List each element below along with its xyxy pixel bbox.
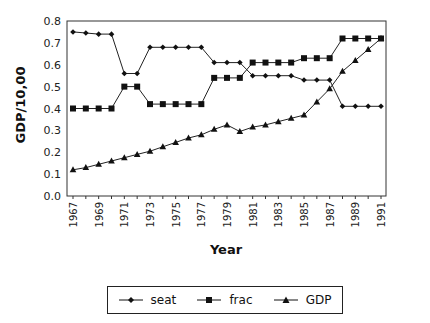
x-tick-label: 1975 xyxy=(171,202,182,227)
legend-label: seat xyxy=(151,293,177,307)
x-tick-label: 1985 xyxy=(299,202,310,227)
x-tick-label: 1981 xyxy=(248,202,259,227)
x-tick-label: 1987 xyxy=(325,202,336,227)
x-tick-label: 1977 xyxy=(196,202,207,227)
legend-item-gdp: GDP xyxy=(274,293,332,307)
series-frac xyxy=(70,36,384,112)
square-marker-icon xyxy=(197,295,221,305)
diamond-marker-icon xyxy=(119,295,143,305)
x-tick-label: 1979 xyxy=(222,202,233,227)
line-chart: 0.00.10.20.30.40.50.60.70.81967196919711… xyxy=(0,0,430,323)
x-tick-label: 1969 xyxy=(94,202,105,227)
triangle-marker-icon xyxy=(274,295,298,305)
plot-area xyxy=(67,21,386,196)
y-tick-label: 0.8 xyxy=(44,15,62,28)
series-seat xyxy=(70,29,384,109)
y-tick-label: 0.3 xyxy=(44,124,62,137)
x-tick-label: 1967 xyxy=(68,202,79,227)
legend: seat frac GDP xyxy=(107,286,343,314)
y-tick-label: 0.6 xyxy=(44,59,62,72)
y-tick-label: 0.2 xyxy=(44,146,62,159)
y-axis-label: GDP/10,00 xyxy=(13,67,28,144)
legend-label: frac xyxy=(229,293,252,307)
y-tick-label: 0.4 xyxy=(44,103,62,116)
legend-item-seat: seat xyxy=(119,293,177,307)
x-tick-label: 1971 xyxy=(119,202,130,227)
x-axis-label: Year xyxy=(210,242,242,257)
y-tick-label: 0.0 xyxy=(44,190,62,203)
series-gdp xyxy=(70,35,385,172)
y-tick-label: 0.7 xyxy=(44,37,62,50)
legend-item-frac: frac xyxy=(197,293,252,307)
legend-label: GDP xyxy=(306,293,332,307)
x-tick-label: 1989 xyxy=(350,202,361,227)
y-tick-label: 0.1 xyxy=(44,168,62,181)
x-tick-label: 1973 xyxy=(145,202,156,227)
y-tick-label: 0.5 xyxy=(44,81,62,94)
x-tick-label: 1991 xyxy=(376,202,387,227)
x-tick-label: 1983 xyxy=(273,202,284,227)
